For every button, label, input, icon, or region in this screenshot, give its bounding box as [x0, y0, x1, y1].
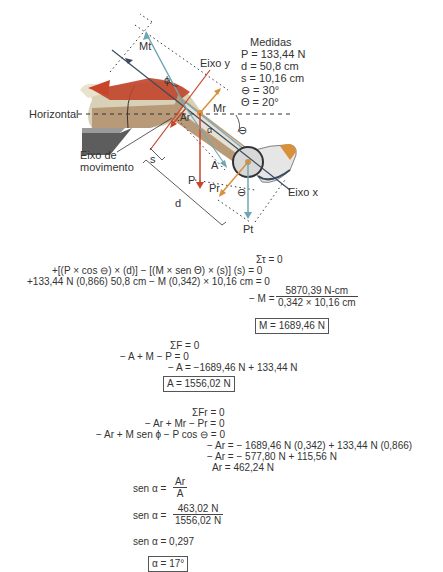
label-theta-top: ⊖: [238, 124, 247, 136]
label-phi: ϕ: [164, 74, 170, 86]
torque-eq-4-prefix: − M =: [249, 293, 275, 305]
force-result-box: A = 1556,02 N: [163, 376, 235, 392]
torque-fraction-numerator: 5870,39 N-cm: [276, 285, 358, 297]
label-Pt: Pt: [243, 223, 253, 235]
angle-fraction-1-denominator: A: [173, 488, 187, 499]
label-Pr: Pr: [209, 182, 220, 194]
torque-fraction: 5870,39 N-cm 0,342 × 10,16 cm: [276, 285, 358, 308]
label-Mt: Mt: [139, 40, 151, 52]
label-P: P: [188, 174, 195, 186]
label-eixo-de: Eixo de: [80, 149, 117, 161]
label-d: d: [175, 197, 181, 209]
label-eixo-y: Eixo y: [200, 57, 230, 69]
force-eq-3: − A = −1689,46 N + 133,44 N: [168, 362, 298, 374]
torque-eq-3: +133,44 N (0,866) 50,8 cm − M (0,342) × …: [27, 276, 270, 288]
angle-fraction-1: Ar A: [173, 476, 187, 499]
measurement-s: s = 10,16 cm: [241, 72, 305, 84]
angle-result-box: α = 17°: [148, 556, 188, 572]
torque-fraction-denominator: 0,342 × 10,16 cm: [276, 297, 358, 308]
label-horizontal: Horizontal: [29, 108, 79, 120]
measurements-panel: Medidas P = 133,44 N d = 50,8 cm s = 10,…: [241, 36, 305, 108]
angle-eq-1-prefix: sen α =: [133, 483, 166, 495]
label-alpha: α: [207, 124, 212, 136]
angle-fraction-1-numerator: Ar: [173, 476, 187, 488]
angle-fraction-2-denominator: 1556,02 N: [173, 515, 223, 526]
torque-result-box: M = 1689,46 N: [255, 318, 329, 334]
rotary-eq-6: Ar = 462,24 N: [212, 462, 274, 474]
measurement-P: P = 133,44 N: [241, 48, 305, 60]
label-Ar: Ar: [180, 112, 190, 124]
label-A: A: [211, 159, 218, 171]
angle-eq-3: sen α = 0,297: [133, 536, 194, 548]
angle-eq-2-prefix: sen α =: [133, 510, 166, 522]
label-s: s: [150, 153, 156, 165]
label-theta-bottom: ⊖: [237, 186, 246, 198]
measurements-title: Medidas: [241, 36, 305, 48]
angle-fraction-2: 463,02 N 1556,02 N: [173, 503, 223, 526]
measurement-theta1: ⊖ = 30°: [241, 84, 305, 96]
free-body-illustration: [0, 0, 443, 240]
measurement-d: d = 50,8 cm: [241, 60, 305, 72]
knee-extension-diagram: Mt Eixo y ϕ Mr Ar α Horizontal ⊖ Eixo de…: [0, 0, 443, 240]
label-eixo-x: Eixo x: [288, 186, 318, 198]
label-Mr: Mr: [213, 102, 226, 114]
rotary-eq-3: − Ar + M sen ϕ − P cos ⊖ = 0: [96, 429, 225, 441]
measurement-theta2: Θ = 20°: [241, 96, 305, 108]
label-movimento: movimento: [80, 161, 134, 173]
angle-fraction-2-numerator: 463,02 N: [173, 503, 223, 515]
